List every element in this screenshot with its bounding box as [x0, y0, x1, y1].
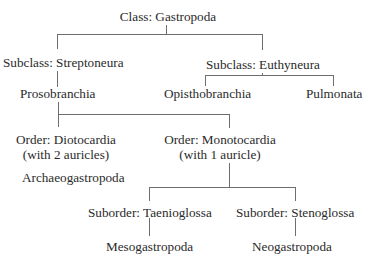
connector-taenioglossa-mesogastropoda [149, 218, 150, 236]
node-suborder-stenoglossa: Suborder: Stenoglossa [236, 205, 360, 220]
connector-to-opisthobranchia [205, 75, 206, 86]
connector-to-stenoglossa [295, 187, 296, 201]
node-prosobranchia: Prosobranchia [20, 86, 100, 101]
node-class-gastropoda: Class: Gastropoda [118, 9, 218, 24]
node-opisthobranchia: Opisthobranchia [164, 86, 254, 101]
monotocardia-label: Order: Monotocardia [164, 132, 276, 147]
connector-to-monotocardia [229, 114, 230, 128]
connector-to-streptoneura [57, 34, 58, 49]
node-pulmonata: Pulmonata [306, 86, 366, 101]
connector-prosobranchia-stem [58, 102, 59, 114]
node-mesogastropoda: Mesogastropoda [106, 239, 196, 254]
node-suborder-taenioglossa: Suborder: Taenioglossa [88, 205, 208, 220]
connector-monotocardia-bar [149, 187, 296, 188]
connector-prosobranchia-bar [58, 114, 230, 115]
node-subclass-euthyneura: Subclass: Euthyneura [206, 57, 322, 72]
diotocardia-label: Order: Diotocardia [14, 132, 118, 147]
connector-to-euthyneura [262, 34, 263, 50]
connector-euthyneura-bar [205, 75, 334, 76]
connector-stenoglossa-neogastropoda [295, 218, 296, 236]
connector-class-bar [57, 34, 263, 35]
monotocardia-note: (with 1 auricle) [164, 147, 276, 162]
node-order-diotocardia: Order: Diotocardia (with 2 auricles) [14, 132, 118, 162]
node-neogastropoda: Neogastropoda [252, 239, 342, 254]
node-order-monotocardia: Order: Monotocardia (with 1 auricle) [164, 132, 276, 162]
diotocardia-note: (with 2 auricles) [14, 147, 118, 162]
connector-to-taenioglossa [149, 187, 150, 201]
connector-monotocardia-stem [229, 163, 230, 187]
connector-streptoneura-prosobranchia [57, 71, 58, 87]
node-archaeogastropoda: Archaeogastropoda [22, 170, 126, 185]
connector-to-diotocardia [58, 114, 59, 127]
node-subclass-streptoneura: Subclass: Streptoneura [3, 55, 127, 70]
connector-class-stem [166, 25, 167, 34]
connector-to-pulmonata [333, 75, 334, 86]
